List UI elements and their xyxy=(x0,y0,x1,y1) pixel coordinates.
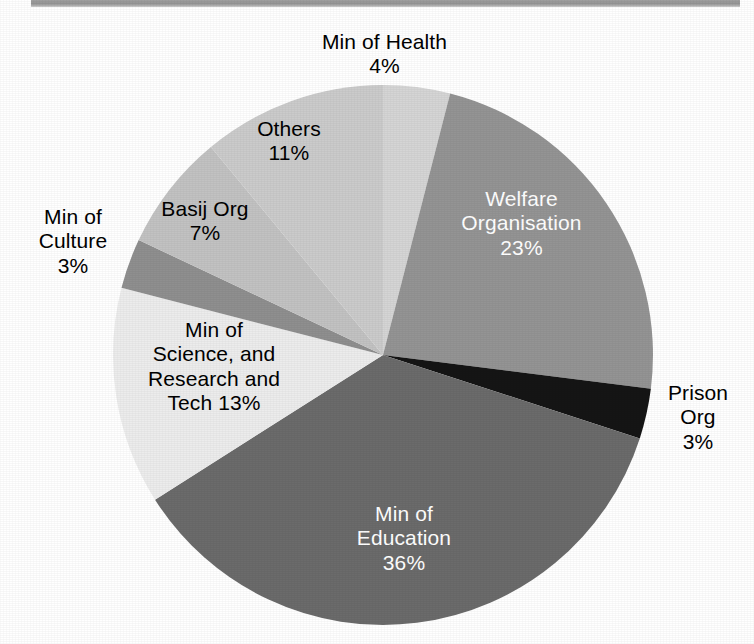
pie-chart-svg xyxy=(0,0,754,644)
pie-slices xyxy=(113,85,653,625)
pie-chart: Min of Health 4% Welfare Organisation 23… xyxy=(0,0,754,644)
